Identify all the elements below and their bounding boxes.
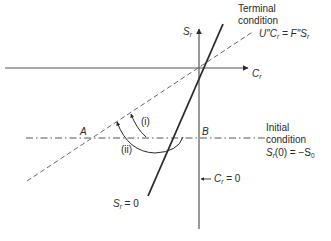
sr-zero-line xyxy=(148,24,223,196)
terminal-condition-line xyxy=(27,31,254,181)
terminal-condition-title-2: condition xyxy=(238,15,278,26)
cr-zero-label: Cr = 0 xyxy=(214,173,241,185)
point-a-label: A xyxy=(79,126,87,137)
c-axis-label: Cr xyxy=(252,68,262,80)
initial-condition-title-1: Initial xyxy=(266,122,289,133)
arc-i-label: (i) xyxy=(141,116,150,127)
initial-condition-equation: Sr(0) = −S0 xyxy=(266,147,315,159)
arc-ii-label: (ii) xyxy=(121,144,132,155)
terminal-condition-title-1: Terminal xyxy=(238,3,276,14)
point-b-label: B xyxy=(202,126,209,137)
s-axis-label: Sr xyxy=(183,26,193,38)
phase-diagram: Sr Cr Terminal condition U″Cr = F″Sr Ini… xyxy=(0,0,331,241)
terminal-condition-equation: U″Cr = F″Sr xyxy=(259,28,310,40)
sr-zero-label: Sr = 0 xyxy=(113,198,139,210)
initial-condition-title-2: condition xyxy=(266,134,306,145)
